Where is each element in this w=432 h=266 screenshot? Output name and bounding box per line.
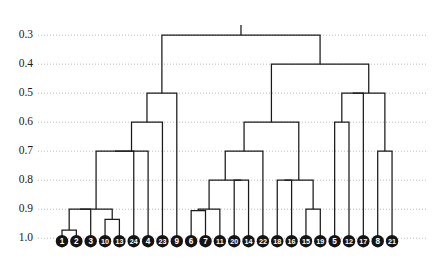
y-tick-label: 0.5: [19, 86, 34, 98]
dendrogram-link: [69, 209, 91, 238]
leaf-badge-16: 16: [285, 235, 297, 247]
dendrogram-link: [284, 180, 313, 209]
leaf-badge-12: 12: [343, 235, 355, 247]
dendrogram-link: [209, 180, 241, 209]
leaf-label: 16: [288, 237, 296, 246]
leaf-label: 10: [101, 237, 109, 246]
y-tick-label: 1.0: [19, 231, 34, 243]
leaf-label: 22: [259, 237, 267, 246]
dendrogram-link: [105, 219, 119, 238]
dendrogram-link: [306, 209, 320, 238]
dendrogram-plot-area: 0.30.40.50.60.70.80.91.0 123101324423967…: [0, 0, 432, 266]
y-tick-label: 0.8: [19, 173, 34, 185]
leaf-label: 11: [216, 237, 224, 246]
leaf-badge-8: 8: [372, 235, 384, 247]
dendrogram-links: [62, 25, 392, 238]
leaf-badge-9: 9: [171, 235, 183, 247]
leaf-label: 14: [245, 237, 253, 246]
leaf-label: 18: [273, 237, 281, 246]
dendrogram-link: [378, 151, 392, 238]
dendrogram-leaf-badges: 123101324423967112014221816151951217821: [56, 235, 398, 247]
leaf-label: 24: [130, 237, 138, 246]
leaf-label: 4: [146, 237, 151, 246]
leaf-badge-2: 2: [70, 235, 82, 247]
dendrogram-link: [198, 209, 220, 238]
dendrogram-link: [191, 211, 205, 239]
leaf-label: 12: [345, 237, 353, 246]
leaf-label: 8: [375, 237, 380, 246]
leaf-badge-11: 11: [214, 235, 226, 247]
leaf-label: 7: [203, 237, 208, 246]
leaf-badge-10: 10: [99, 235, 111, 247]
dendrogram-link: [80, 209, 112, 219]
leaf-badge-13: 13: [113, 235, 125, 247]
leaf-label: 5: [332, 237, 337, 246]
leaf-badge-21: 21: [386, 235, 398, 247]
leaf-badge-24: 24: [128, 235, 140, 247]
leaf-badge-3: 3: [85, 235, 97, 247]
leaf-label: 6: [189, 237, 194, 246]
leaf-label: 9: [175, 237, 180, 246]
y-tick-label: 0.6: [19, 115, 34, 127]
leaf-badge-7: 7: [199, 235, 211, 247]
leaf-label: 2: [74, 237, 79, 246]
leaf-badge-14: 14: [242, 235, 254, 247]
leaf-label: 17: [359, 237, 367, 246]
leaf-badge-6: 6: [185, 235, 197, 247]
leaf-label: 15: [302, 237, 310, 246]
leaf-badge-19: 19: [314, 235, 326, 247]
leaf-badge-17: 17: [357, 235, 369, 247]
dendrogram-chart: 0.30.40.50.60.70.80.91.0 123101324423967…: [0, 0, 432, 266]
y-tick-label: 0.3: [19, 28, 34, 40]
leaf-label: 23: [158, 237, 166, 246]
leaf-label: 21: [388, 237, 396, 246]
dendrogram-link: [342, 93, 364, 238]
leaf-label: 13: [115, 237, 123, 246]
leaf-label: 3: [88, 237, 93, 246]
y-tick-label: 0.9: [19, 202, 34, 214]
y-axis-tick-labels: 0.30.40.50.60.70.80.91.0: [19, 28, 34, 243]
leaf-badge-4: 4: [142, 235, 154, 247]
leaf-badge-1: 1: [56, 235, 68, 247]
leaf-label: 20: [230, 237, 238, 246]
leaf-badge-23: 23: [156, 235, 168, 247]
leaf-badge-20: 20: [228, 235, 240, 247]
y-tick-label: 0.4: [19, 57, 34, 69]
leaf-label: 19: [316, 237, 324, 246]
leaf-badge-18: 18: [271, 235, 283, 247]
leaf-label: 1: [60, 237, 65, 246]
leaf-badge-22: 22: [257, 235, 269, 247]
leaf-badge-5: 5: [328, 235, 340, 247]
y-tick-label: 0.7: [19, 144, 34, 156]
dendrogram-link: [96, 151, 134, 238]
leaf-badge-15: 15: [300, 235, 312, 247]
dendrogram-link: [225, 151, 263, 238]
